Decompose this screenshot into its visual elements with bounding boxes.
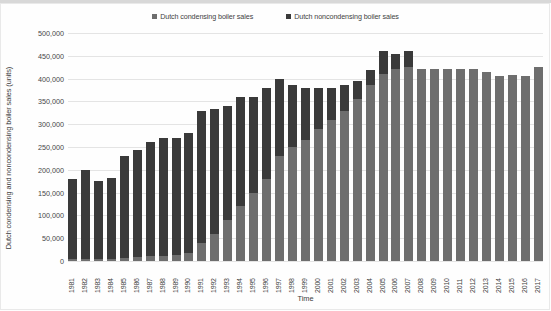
bar-segment-noncondensing [210, 109, 219, 233]
bar-column[interactable] [314, 33, 323, 261]
bar-segment-condensing [534, 67, 543, 261]
bar-column[interactable] [508, 33, 517, 261]
bar-column[interactable] [120, 33, 129, 261]
bar-column[interactable] [391, 33, 400, 261]
bar-segment-noncondensing [236, 97, 245, 206]
x-axis-tick-label: 1994 [236, 263, 245, 293]
bar-column[interactable] [159, 33, 168, 261]
chart-container: Dutch condensing boiler salesDutch nonco… [0, 0, 551, 311]
bar-column[interactable] [236, 33, 245, 261]
bar-segment-noncondensing [81, 170, 90, 259]
bar-segment-condensing [236, 206, 245, 261]
chart-legend: Dutch condensing boiler salesDutch nonco… [0, 9, 551, 23]
bar-segment-condensing [366, 85, 375, 261]
bar-segment-noncondensing [340, 85, 349, 110]
bar-column[interactable] [288, 33, 297, 261]
bar-column[interactable] [301, 33, 310, 261]
bar-column[interactable] [172, 33, 181, 261]
legend-entry[interactable]: Dutch noncondensing boiler sales [286, 12, 399, 21]
bar-segment-noncondensing [391, 54, 400, 70]
bar-segment-noncondensing [327, 88, 336, 120]
bar-column[interactable] [275, 33, 284, 261]
bar-segment-condensing [94, 259, 103, 261]
y-axis-tick-label: 450,000 [22, 52, 64, 61]
bar-column[interactable] [366, 33, 375, 261]
bar-column[interactable] [133, 33, 142, 261]
bar-column[interactable] [107, 33, 116, 261]
bars-group [68, 33, 543, 261]
bar-segment-condensing [327, 120, 336, 261]
y-axis-title: Dutch condensing and noncondensing boile… [4, 33, 16, 283]
bar-column[interactable] [534, 33, 543, 261]
bar-segment-condensing [391, 69, 400, 261]
x-axis-tick-label: 2006 [391, 263, 400, 293]
bar-column[interactable] [68, 33, 77, 261]
bar-segment-condensing [430, 69, 439, 261]
bar-column[interactable] [249, 33, 258, 261]
bar-column[interactable] [482, 33, 491, 261]
bar-segment-noncondensing [301, 88, 310, 140]
bar-segment-condensing [288, 147, 297, 261]
bar-column[interactable] [379, 33, 388, 261]
x-axis-tick-label: 1998 [288, 263, 297, 293]
y-axis-tick-label: 350,000 [22, 97, 64, 106]
bar-column[interactable] [430, 33, 439, 261]
bar-segment-noncondensing [366, 70, 375, 86]
x-axis-tick-label: 1987 [146, 263, 155, 293]
bar-segment-noncondensing [159, 138, 168, 256]
y-axis-tick-label: 300,000 [22, 120, 64, 129]
x-axis-tick-label: 2016 [521, 263, 530, 293]
bar-column[interactable] [443, 33, 452, 261]
bar-column[interactable] [327, 33, 336, 261]
bar-segment-condensing [107, 259, 116, 261]
bar-column[interactable] [495, 33, 504, 261]
bar-column[interactable] [184, 33, 193, 261]
bar-column[interactable] [404, 33, 413, 261]
x-axis-tick-label: 2010 [443, 263, 452, 293]
x-axis-tick-label: 2013 [482, 263, 491, 293]
bar-column[interactable] [197, 33, 206, 261]
legend-entry[interactable]: Dutch condensing boiler sales [152, 12, 253, 21]
bar-segment-noncondensing [68, 179, 77, 259]
x-axis-tick-label: 1995 [249, 263, 258, 293]
bar-segment-noncondensing [353, 81, 362, 99]
bar-segment-noncondensing [379, 51, 388, 74]
bar-column[interactable] [521, 33, 530, 261]
bar-segment-condensing [249, 193, 258, 261]
x-axis-title: Time [68, 294, 543, 303]
legend-label: Dutch noncondensing boiler sales [294, 12, 399, 21]
bar-column[interactable] [353, 33, 362, 261]
y-axis-tick-label: 250,000 [22, 143, 64, 152]
bar-column[interactable] [94, 33, 103, 261]
bar-column[interactable] [262, 33, 271, 261]
bar-segment-condensing [301, 140, 310, 261]
bar-column[interactable] [340, 33, 349, 261]
bar-segment-condensing [482, 72, 491, 261]
bar-segment-condensing [68, 259, 77, 261]
y-axis-tick-label: 500,000 [22, 29, 64, 38]
bar-column[interactable] [223, 33, 232, 261]
bar-column[interactable] [81, 33, 90, 261]
bar-column[interactable] [456, 33, 465, 261]
bar-segment-condensing [172, 255, 181, 261]
x-axis-tick-label: 1990 [184, 263, 193, 293]
x-axis-tick-label: 1997 [275, 263, 284, 293]
x-axis-tick-label: 2014 [495, 263, 504, 293]
bar-segment-condensing [120, 258, 129, 261]
bar-segment-condensing [469, 69, 478, 261]
x-axis-tick-label: 1985 [120, 263, 129, 293]
x-axis-tick-label: 1984 [107, 263, 116, 293]
x-axis-tick-label: 1983 [94, 263, 103, 293]
x-axis-tick-label: 1982 [81, 263, 90, 293]
bar-column[interactable] [146, 33, 155, 261]
bar-segment-condensing [197, 243, 206, 261]
x-axis-tick-label: 2002 [340, 263, 349, 293]
x-axis-tick-label: 2017 [534, 263, 543, 293]
bar-column[interactable] [210, 33, 219, 261]
bar-segment-noncondensing [184, 133, 193, 252]
bar-column[interactable] [469, 33, 478, 261]
bar-segment-noncondensing [275, 79, 284, 157]
bar-segment-condensing [340, 111, 349, 261]
bar-column[interactable] [417, 33, 426, 261]
x-axis-tick-label: 2009 [430, 263, 439, 293]
